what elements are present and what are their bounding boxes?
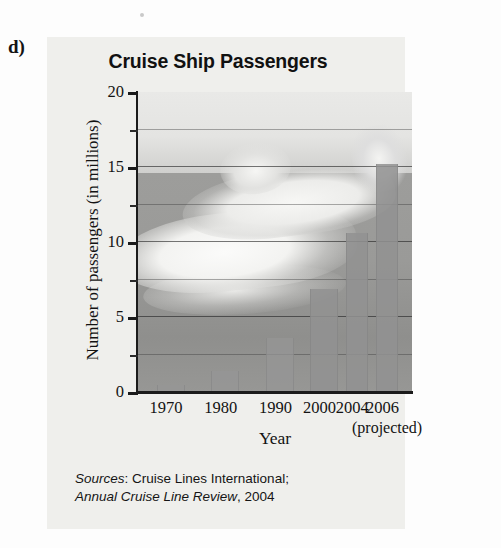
scanned-page: d) Cruise Ship Passengers Number of pass… [0, 0, 501, 548]
y-tick-label-10: 10 [84, 232, 124, 252]
sources-line-1: Sources: Cruise Lines International; [75, 470, 395, 488]
gridline [138, 204, 412, 205]
y-tick-label-0: 0 [84, 382, 124, 402]
y-axis-tick-labels: 05101520 [84, 0, 124, 548]
x-tick-label-2004: 2004 [336, 398, 369, 418]
y-tick-minor [130, 355, 138, 357]
gridline [138, 241, 412, 242]
y-tick-major [128, 167, 138, 170]
x-tick-label-2000: 2000 [303, 398, 336, 418]
sources-citation: Sources: Cruise Lines International; Ann… [75, 470, 395, 506]
scan-artifact-speck [140, 13, 144, 17]
x-tick-label-2006: 2006 [366, 398, 399, 418]
x-tick-label-1970: 1970 [150, 398, 183, 418]
bar-1980 [211, 371, 239, 392]
y-tick-minor [130, 205, 138, 207]
bar-2000 [310, 289, 338, 393]
bar-2006 [376, 164, 398, 392]
part-label: d) [8, 36, 25, 58]
y-tick-label-15: 15 [84, 157, 124, 177]
x-tick-label-1980: 1980 [204, 398, 237, 418]
bar-1990 [266, 338, 294, 392]
y-tick-major [128, 92, 138, 95]
y-tick-label-5: 5 [84, 307, 124, 327]
y-tick-minor [130, 130, 138, 132]
gridline [138, 166, 412, 167]
bar-2004 [346, 233, 368, 392]
plot-area [138, 92, 412, 392]
gridline [138, 316, 412, 317]
sources-publication: Annual Cruise Line Review [75, 489, 237, 504]
y-tick-major [128, 242, 138, 245]
projected-annotation: (projected) [352, 419, 422, 437]
gridline [138, 279, 412, 280]
y-tick-major [128, 392, 138, 395]
gridline [138, 129, 412, 130]
sources-line-2-rest: , 2004 [237, 489, 275, 504]
y-tick-label-20: 20 [84, 82, 124, 102]
x-tick-label-1990: 1990 [259, 398, 292, 418]
sources-label: Sources [75, 471, 125, 486]
y-tick-minor [130, 280, 138, 282]
sources-line-1-rest: Cruise Lines International; [128, 471, 289, 486]
sources-line-2: Annual Cruise Line Review, 2004 [75, 488, 395, 506]
y-tick-major [128, 317, 138, 320]
x-axis-line [137, 391, 413, 394]
